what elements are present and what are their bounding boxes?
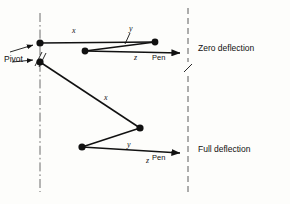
zero-deflection-label: Zero deflection bbox=[198, 44, 254, 53]
full-deflection-label: Full deflection bbox=[198, 145, 250, 154]
lower-xy-joint bbox=[136, 124, 143, 131]
lower-yz-joint bbox=[78, 143, 85, 150]
lower-member-z-label: z bbox=[146, 157, 149, 165]
lower-member-x-label: x bbox=[104, 94, 108, 102]
pivot-leader-upper bbox=[10, 45, 33, 52]
lower-member-y bbox=[82, 128, 140, 147]
axis-break-tick-icon bbox=[184, 64, 192, 72]
upper-member-y bbox=[85, 42, 155, 51]
upper-member-x bbox=[40, 42, 155, 43]
diagram-canvas: Pivot x y z x y z Pen Pen Zero deflectio… bbox=[0, 0, 290, 204]
upper-xy-joint bbox=[152, 39, 159, 46]
upper-pen-label: Pen bbox=[152, 54, 165, 62]
upper-member-y-label: y bbox=[129, 25, 133, 33]
pivot-label: Pivot bbox=[4, 55, 23, 64]
lower-pen-label: Pen bbox=[152, 154, 165, 162]
linkage-vector-layer bbox=[0, 0, 290, 204]
lower-member-x bbox=[40, 62, 140, 128]
upper-member-z bbox=[85, 51, 180, 53]
upper-yz-joint bbox=[82, 48, 89, 55]
lower-member-z bbox=[82, 147, 180, 153]
upper-member-z-label: z bbox=[134, 54, 137, 62]
upper-member-x-label: x bbox=[72, 27, 76, 35]
upper-pivot-joint bbox=[36, 39, 43, 46]
lower-member-y-label: y bbox=[127, 141, 131, 149]
